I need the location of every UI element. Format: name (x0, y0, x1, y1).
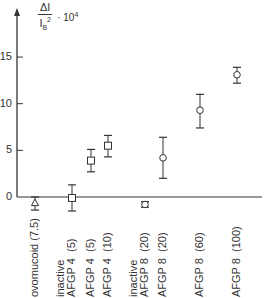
square-marker-icon (69, 194, 76, 201)
triangle-marker-icon (32, 199, 39, 206)
circle-marker-icon (234, 71, 241, 78)
category-label: AFGP 8 (20) (139, 232, 150, 297)
y-axis-label: ΔI IB2 · 104 (38, 2, 78, 31)
square-marker-icon (88, 157, 95, 164)
y-tick-label: 10 (0, 97, 12, 109)
circle-marker-icon (142, 201, 149, 208)
y-tick-label: 0 (0, 190, 12, 202)
y-axis-arrow-icon (14, 8, 20, 16)
y-label-denominator: IB2 (38, 15, 52, 31)
y-label-multiplier: · 104 (57, 12, 78, 23)
den-sub: B (42, 24, 47, 31)
mult-sup: 4 (74, 10, 78, 17)
category-label: ovomucoid (7.5) (29, 218, 40, 297)
category-label: AFGP 8 (20) (157, 232, 168, 297)
mult-base: · 10 (57, 12, 74, 23)
y-tick-label: 15 (0, 50, 12, 62)
category-label: AFGP 4 (5) (66, 239, 77, 297)
y-tick-label: 5 (0, 143, 12, 155)
square-marker-icon (105, 142, 112, 149)
y-label-numerator: ΔI (38, 2, 52, 15)
category-label: AFGP 8 (100) (231, 226, 242, 297)
circle-marker-icon (160, 155, 167, 162)
category-label: AFGP 8 (60) (194, 232, 205, 297)
category-label: AFGP 4 (10) (102, 232, 113, 297)
category-label: AFGP 4 (5) (85, 239, 96, 297)
den-sup: 2 (47, 16, 51, 23)
circle-marker-icon (197, 107, 204, 114)
